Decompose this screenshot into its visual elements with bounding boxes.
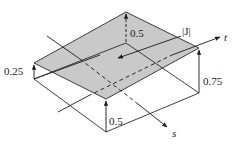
left-height-label: 0.25 bbox=[4, 65, 24, 77]
front-height-label: 0.5 bbox=[109, 115, 123, 127]
jacobian-label: |J| bbox=[182, 25, 191, 37]
s-axis-label: s bbox=[172, 127, 176, 139]
t-axis-label: t bbox=[224, 31, 228, 43]
right-height-label: 0.75 bbox=[203, 75, 223, 87]
jacobian-surface-diagram: 0.5 0.25 0.75 0.5 |J| t s bbox=[0, 0, 238, 145]
top-height-label: 0.5 bbox=[130, 27, 144, 39]
jacobian-surface bbox=[34, 12, 199, 99]
